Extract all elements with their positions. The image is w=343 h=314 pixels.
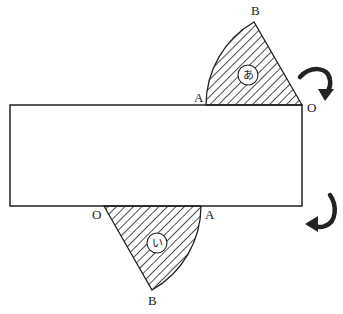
point-b-lower: B (148, 293, 157, 308)
sector-label-a: あ (243, 69, 254, 82)
rectangle (10, 105, 302, 206)
point-o-upper: O (307, 100, 316, 115)
upper-sector: あ A O B (194, 3, 316, 115)
clockwise-arrow-icon (300, 69, 334, 101)
figure: あ A O B い O A B (0, 0, 343, 314)
sector-label-i: い (152, 237, 163, 250)
counterclockwise-arrow-icon (305, 195, 335, 232)
point-a-upper: A (194, 90, 204, 105)
lower-sector: い O A B (92, 206, 215, 308)
point-o-lower: O (92, 207, 101, 222)
point-b-upper: B (251, 3, 260, 18)
point-a-lower: A (205, 207, 215, 222)
